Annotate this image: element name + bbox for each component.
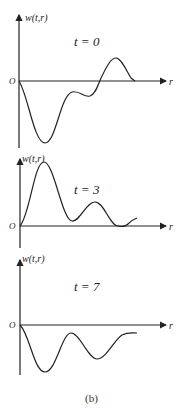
panel-t3: w(t,r) r O t = 3 — [9, 153, 173, 248]
wave-curve — [20, 325, 137, 372]
x-axis-label: r — [169, 221, 173, 232]
wave-curve — [19, 58, 135, 143]
panel-t7: w(t,r) r O t = 7 — [9, 253, 173, 375]
y-axis-label: w(t,r) — [25, 12, 48, 24]
x-axis-label: r — [169, 76, 173, 87]
y-axis-label: w(t,r) — [22, 253, 45, 265]
wave-evolution-diagram: w(t,r) r O t = 0 w(t,r) r O t = 3 w(t,r)… — [0, 0, 183, 410]
time-label: t = 0 — [74, 34, 100, 49]
x-axis-label: r — [169, 320, 173, 331]
time-label: t = 7 — [74, 279, 100, 294]
origin-label: O — [9, 221, 16, 231]
y-axis-label: w(t,r) — [22, 153, 45, 165]
origin-label: O — [9, 320, 16, 330]
panel-t0: w(t,r) r O t = 0 — [9, 12, 173, 148]
figure-caption: (b) — [0, 392, 183, 404]
origin-label: O — [9, 76, 16, 86]
time-label: t = 3 — [74, 182, 100, 197]
